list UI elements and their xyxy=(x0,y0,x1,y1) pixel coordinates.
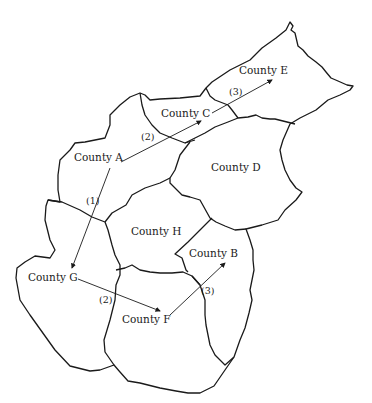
step-label-c-e: (3) xyxy=(229,86,242,97)
county-g-label: County G xyxy=(28,271,78,283)
county-b-label: County B xyxy=(189,247,238,259)
step-label-a-c: (2) xyxy=(141,131,154,142)
county-h-label: County H xyxy=(131,225,182,237)
border-h-f xyxy=(116,265,200,285)
border-a-h xyxy=(105,178,170,222)
outer-boundary xyxy=(16,22,353,393)
border-a-d xyxy=(170,142,246,230)
county-map: County A County B County C County D Coun… xyxy=(0,0,372,403)
route-a-g xyxy=(72,168,110,268)
map-borders xyxy=(0,0,372,403)
county-a-label: County A xyxy=(74,151,123,163)
step-label-g-f: (2) xyxy=(99,294,112,305)
route-f-b xyxy=(170,263,225,315)
route-g-f xyxy=(78,279,160,311)
step-label-f-b: (3) xyxy=(201,285,214,296)
county-c-label: County C xyxy=(161,107,210,119)
county-f-label: County F xyxy=(122,313,171,325)
border-c-d xyxy=(185,115,295,143)
county-e-label: County E xyxy=(239,64,288,76)
county-d-label: County D xyxy=(211,161,261,173)
step-label-a-g: (1) xyxy=(86,195,99,206)
